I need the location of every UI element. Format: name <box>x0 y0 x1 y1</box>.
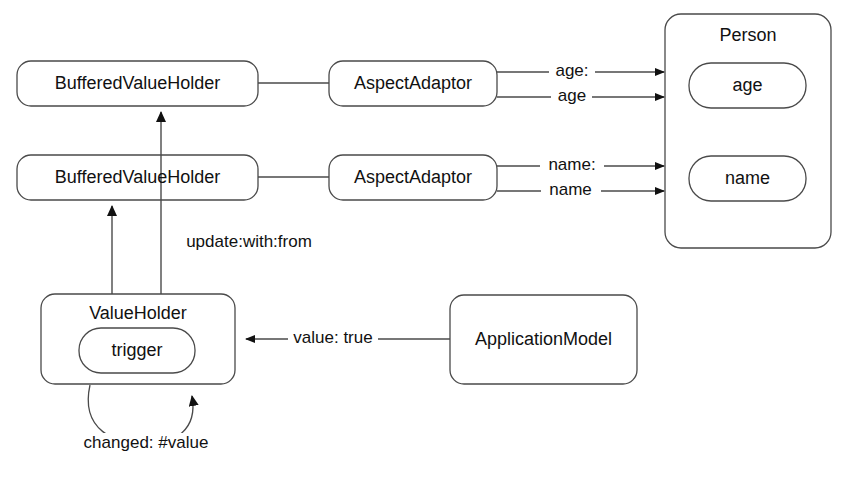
node-aspect-adaptor-name[interactable] <box>329 155 497 200</box>
node-buffered-value-holder-name[interactable] <box>17 155 258 200</box>
edge-label-update-with-from: update:with:from <box>178 232 320 252</box>
edge-label-value-true: value: true <box>288 328 378 348</box>
edge-label-age-setter: age: <box>549 61 595 81</box>
node-buffered-value-holder-age[interactable] <box>17 61 258 106</box>
edge-label-name-setter: name: <box>537 155 607 175</box>
node-person[interactable] <box>665 14 831 248</box>
diagram-canvas: BufferedValueHolder BufferedValueHolder … <box>0 0 848 479</box>
node-value-holder-trigger[interactable] <box>79 328 195 373</box>
node-application-model[interactable] <box>450 295 637 384</box>
edge-label-changed-value: changed: #value <box>68 433 224 453</box>
diagram-vector-layer <box>0 0 848 479</box>
edge-label-name-getter: name <box>537 180 604 200</box>
node-aspect-adaptor-age[interactable] <box>329 61 497 106</box>
node-person-name-slot[interactable] <box>689 156 806 201</box>
edge-label-age-getter: age <box>549 86 595 106</box>
node-person-age-slot[interactable] <box>689 63 806 108</box>
